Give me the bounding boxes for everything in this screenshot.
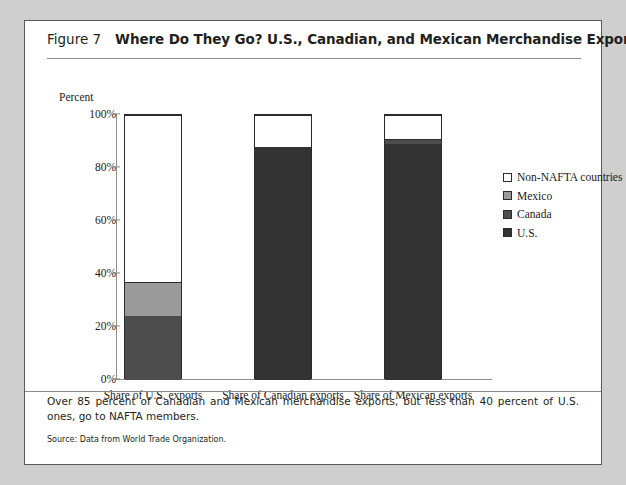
- figure-container: Figure 7 Where Do They Go? U.S., Canadia…: [24, 20, 602, 465]
- legend-item[interactable]: Non-NAFTA countries: [503, 171, 622, 183]
- legend-swatch-icon: [503, 191, 512, 200]
- bar-segment[interactable]: [385, 144, 441, 380]
- figure-source: Source: Data from World Trade Organizati…: [47, 435, 226, 444]
- bar-column[interactable]: [254, 114, 312, 379]
- legend-swatch-icon: [503, 173, 512, 182]
- bar-segment[interactable]: [125, 115, 181, 282]
- bar-column[interactable]: [384, 114, 442, 379]
- y-axis-tick-mark: [113, 272, 120, 273]
- figure-title: Where Do They Go? U.S., Canadian, and Me…: [115, 31, 626, 47]
- bar-segment[interactable]: [385, 115, 441, 139]
- y-axis-tick-label: 0%: [70, 373, 116, 385]
- footnote-divider: [25, 391, 601, 392]
- legend-item[interactable]: U.S.: [503, 227, 622, 239]
- y-axis-line: [116, 114, 117, 380]
- bar-segment[interactable]: [125, 282, 181, 316]
- legend-label: Mexico: [517, 190, 552, 202]
- y-axis-tick-label: 100%: [70, 108, 116, 120]
- bar-column[interactable]: [124, 114, 182, 379]
- bar-segment[interactable]: [385, 139, 441, 144]
- legend-label: Non-NAFTA countries: [517, 171, 622, 183]
- figure-footnote: Over 85 percent of Canadian and Mexican …: [47, 394, 579, 424]
- y-axis-tick-mark: [113, 378, 120, 379]
- legend-item[interactable]: Mexico: [503, 190, 622, 202]
- y-axis-tick-label: 20%: [70, 320, 116, 332]
- legend-label: U.S.: [517, 227, 537, 239]
- page-background: Figure 7 Where Do They Go? U.S., Canadia…: [0, 0, 626, 485]
- legend-swatch-icon: [503, 210, 512, 219]
- y-axis-title: Percent: [59, 91, 93, 103]
- bar-segment[interactable]: [255, 147, 311, 380]
- y-axis-tick-label: 80%: [70, 161, 116, 173]
- legend-label: Canada: [517, 208, 551, 220]
- figure-header: Figure 7 Where Do They Go? U.S., Canadia…: [25, 21, 601, 57]
- legend-item[interactable]: Canada: [503, 208, 622, 220]
- bar-segment[interactable]: [125, 316, 181, 380]
- y-axis-tick-mark: [113, 166, 120, 167]
- y-axis-tick-mark: [113, 113, 120, 114]
- bar-segment[interactable]: [255, 115, 311, 147]
- y-axis-tick-label: 40%: [70, 267, 116, 279]
- y-axis-tick-label: 60%: [70, 214, 116, 226]
- header-divider: [47, 58, 581, 59]
- figure-number: Figure 7: [47, 31, 101, 47]
- y-axis-tick-mark: [113, 219, 120, 220]
- chart-legend: Non-NAFTA countriesMexicoCanadaU.S.: [503, 171, 622, 245]
- legend-swatch-icon: [503, 228, 512, 237]
- y-axis-tick-mark: [113, 325, 120, 326]
